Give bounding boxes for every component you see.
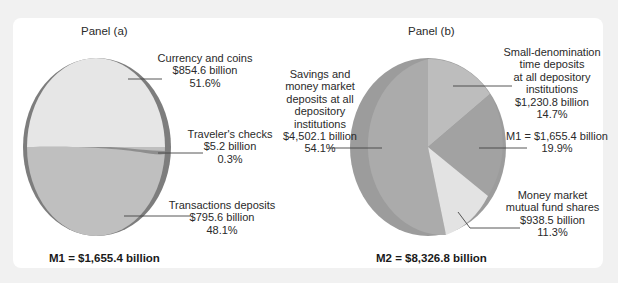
label-value: $4,502.1 billion [270, 130, 370, 142]
m2-total: M2 = $8,326.8 billion [376, 252, 487, 264]
label-value: $795.6 billion [166, 211, 278, 223]
label-percent: 19.9% [497, 142, 617, 154]
label-line: time deposits [497, 58, 607, 70]
label-name: Currency and coins [140, 52, 270, 64]
label-percent: 14.7% [497, 108, 607, 120]
label-line: depository [270, 105, 370, 117]
label-mmmf: Money market mutual fund shares $938.5 b… [500, 189, 605, 239]
label-percent: 0.3% [175, 153, 285, 165]
label-name: Transactions deposits [166, 199, 278, 211]
label-line: deposits at all [270, 93, 370, 105]
slice-transactions-deposits [27, 147, 165, 236]
label-savings: Savings and money market deposits at all… [270, 68, 370, 155]
label-percent: 11.3% [500, 226, 605, 238]
label-line: at all depository [497, 71, 607, 83]
panel-b-title: Panel (b) [408, 25, 455, 37]
label-value: $5.2 billion [175, 140, 285, 152]
label-currency-and-coins: Currency and coins $854.6 billion 51.6% [140, 52, 270, 89]
label-percent: 54.1% [270, 142, 370, 154]
label-small-denomination: Small-denomination time deposits at all … [497, 46, 607, 120]
label-transactions-deposits: Transactions deposits $795.6 billion 48.… [166, 199, 278, 236]
label-line: institutions [497, 83, 607, 95]
label-travelers-checks: Traveler's checks $5.2 billion 0.3% [175, 128, 285, 165]
label-line: Money market [500, 189, 605, 201]
panel-a-title: Panel (a) [81, 25, 128, 37]
label-line: mutual fund shares [500, 201, 605, 213]
label-m1: M1 = $1,655.4 billion 19.9% [497, 130, 617, 155]
label-line: institutions [270, 118, 370, 130]
label-value: $854.6 billion [140, 64, 270, 76]
label-line: Small-denomination [497, 46, 607, 58]
label-value: $1,230.8 billion [497, 96, 607, 108]
label-value: $938.5 billion [500, 214, 605, 226]
label-name: Traveler's checks [175, 128, 285, 140]
m1-total: M1 = $1,655.4 billion [49, 252, 160, 264]
label-name: M1 = $1,655.4 billion [497, 130, 617, 142]
label-line: Savings and [270, 68, 370, 80]
label-percent: 48.1% [166, 224, 278, 236]
label-percent: 51.6% [140, 77, 270, 89]
label-line: money market [270, 80, 370, 92]
